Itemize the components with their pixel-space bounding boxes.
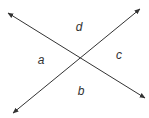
angle-label-c: c — [116, 48, 122, 62]
angle-label-a: a — [38, 53, 45, 67]
intersecting-lines-diagram: d a c b — [0, 0, 149, 118]
angle-label-b: b — [78, 84, 85, 98]
angle-label-d: d — [76, 20, 83, 34]
